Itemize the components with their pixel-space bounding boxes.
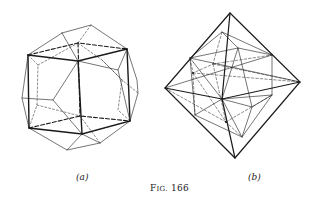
caption-small: IG.: [157, 185, 168, 193]
panel-b-octahedron: [165, 13, 300, 158]
figure-caption: FIG. 166: [150, 183, 189, 193]
caption-number: 166: [171, 183, 189, 193]
panel-a-label: (a): [76, 172, 88, 182]
figure-166-drawing: [0, 0, 313, 198]
panel-b-label: (b): [248, 172, 261, 182]
panel-a-polyhedron: [22, 25, 138, 150]
